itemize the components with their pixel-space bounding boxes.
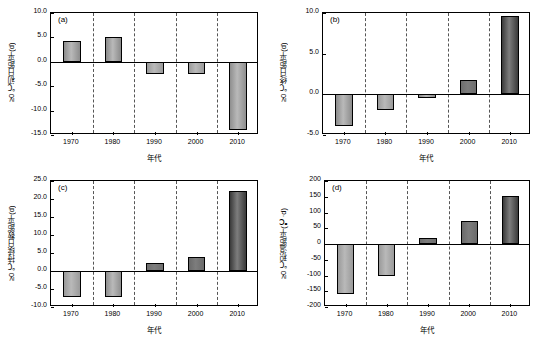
zero-axis-line [325, 244, 529, 245]
y-tick-label: 200 [292, 175, 321, 182]
gridline-vertical [407, 181, 408, 305]
y-tick-mark [51, 307, 54, 308]
y-tick-mark [325, 197, 328, 198]
x-tick-mark [238, 132, 239, 135]
zero-axis-line [51, 271, 257, 272]
y-tick-mark [51, 37, 54, 38]
x-tick-label: 1990 [407, 310, 447, 317]
bar [105, 271, 122, 297]
y-tick-mark [51, 135, 54, 136]
y-tick-label: -5.0 [290, 129, 319, 136]
x-tick-mark [387, 304, 388, 307]
x-tick-label: 1980 [366, 310, 406, 317]
panel-label-b: (b) [330, 15, 340, 24]
gridline-vertical [406, 13, 407, 133]
gridline-vertical [365, 13, 366, 133]
y-axis-label-b: ≥0 ℃终日距平(d) [278, 12, 288, 132]
y-tick-label: 15.0 [18, 211, 47, 218]
y-tick-mark [51, 86, 54, 87]
y-tick-label: 10.0 [18, 229, 47, 236]
bar [378, 244, 395, 276]
x-axis-label-a: 年代 [50, 152, 258, 163]
x-axis-label-c: 年代 [50, 324, 258, 335]
y-axis-label-a: ≥0 ℃初日距平(d) [6, 12, 16, 132]
x-tick-label: 1970 [51, 138, 91, 145]
y-tick-label: 25.0 [18, 175, 47, 182]
x-tick-mark [344, 132, 345, 135]
y-tick-mark [323, 13, 326, 14]
gridline-vertical [217, 181, 218, 305]
x-tick-label: 1970 [325, 310, 365, 317]
bar [105, 37, 122, 62]
x-tick-mark [72, 132, 73, 135]
gridline-vertical [134, 181, 135, 305]
x-tick-label: 2010 [489, 138, 529, 145]
gridline-vertical [176, 13, 177, 133]
x-tick-mark [155, 304, 156, 307]
x-tick-label: 2010 [217, 138, 257, 145]
x-tick-label: 1970 [51, 310, 91, 317]
bar [63, 271, 80, 297]
bar [188, 62, 205, 74]
bar [335, 94, 352, 126]
bar [461, 221, 478, 244]
gridline-vertical [93, 181, 94, 305]
gridline-vertical [490, 181, 491, 305]
x-tick-mark [113, 304, 114, 307]
gridline-vertical [448, 13, 449, 133]
x-tick-mark [197, 132, 198, 135]
x-tick-label: 2000 [448, 138, 488, 145]
y-tick-label: -100 [292, 270, 321, 277]
x-tick-mark [510, 304, 511, 307]
x-tick-mark [113, 132, 114, 135]
y-tick-label: 150 [292, 191, 321, 198]
y-tick-label: 10.0 [290, 7, 319, 14]
gridline-vertical [176, 181, 177, 305]
x-tick-label: 1980 [364, 138, 404, 145]
x-tick-mark [510, 132, 511, 135]
chart-panel-d: ≥0 ℃积温距平(℃·d) (d) 年代 200150100500-50-100… [272, 176, 545, 342]
y-axis-label-d: ≥0 ℃积温距平(℃·d) [278, 180, 288, 306]
y-tick-label: 5.0 [18, 31, 47, 38]
y-tick-mark [323, 54, 326, 55]
bar [63, 41, 80, 62]
bar [460, 80, 477, 95]
x-tick-label: 1980 [92, 138, 132, 145]
gridline-vertical [93, 13, 94, 133]
y-tick-mark [325, 260, 328, 261]
x-axis-label-d: 年代 [324, 324, 530, 335]
x-tick-label: 1990 [406, 138, 446, 145]
bar [418, 94, 435, 97]
y-tick-mark [325, 276, 328, 277]
y-tick-mark [325, 213, 328, 214]
plot-area-d [324, 180, 530, 306]
x-tick-mark [469, 304, 470, 307]
bar [501, 16, 518, 94]
bar [229, 191, 246, 271]
x-tick-label: 1990 [134, 138, 174, 145]
y-tick-label: 10.0 [18, 7, 47, 14]
x-tick-mark [155, 132, 156, 135]
y-tick-label: 0.0 [18, 56, 47, 63]
x-tick-label: 2000 [176, 138, 216, 145]
y-tick-label: 100 [292, 207, 321, 214]
plot-area-b [322, 12, 530, 134]
bar [377, 94, 394, 109]
gridline-vertical [134, 13, 135, 133]
chart-panel-a: ≥0 ℃初日距平(d) (a) 年代 10.05.00.0-5.0-10.0-1… [0, 4, 270, 164]
y-tick-label: 0.0 [290, 88, 319, 95]
gridline-vertical [449, 181, 450, 305]
panel-label-c: (c) [58, 183, 67, 192]
y-tick-label: -15.0 [18, 129, 47, 136]
gridline-vertical [366, 181, 367, 305]
x-tick-label: 2010 [217, 310, 257, 317]
y-tick-label: -200 [292, 301, 321, 308]
x-tick-mark [469, 132, 470, 135]
y-tick-label: -10.0 [18, 105, 47, 112]
x-tick-mark [428, 304, 429, 307]
y-tick-mark [51, 217, 54, 218]
bar [146, 263, 163, 271]
y-tick-label: -5.0 [18, 283, 47, 290]
y-tick-label: -5.0 [18, 80, 47, 87]
y-axis-label-c: ≥0 ℃持续日数距平(d) [6, 180, 16, 306]
